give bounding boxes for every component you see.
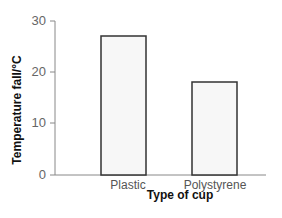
bar-polystyrene bbox=[192, 82, 237, 175]
y-tick-label-0: 0 bbox=[16, 168, 46, 182]
bar-plastic bbox=[101, 36, 146, 175]
x-axis-label: Type of cup bbox=[110, 188, 250, 202]
y-tick-label-30: 30 bbox=[16, 14, 46, 28]
bar-chart: 30 20 10 0 Temperature fall/°C Plastic P… bbox=[0, 0, 282, 218]
y-axis-label: Temperature fall/°C bbox=[10, 55, 24, 164]
